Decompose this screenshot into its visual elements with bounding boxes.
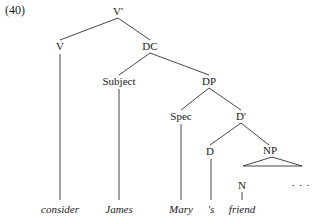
node-ellipsis: . . .: [292, 176, 311, 188]
node-d: D: [206, 145, 214, 157]
node-np: NP: [263, 144, 277, 156]
node-dbar: D': [236, 110, 246, 122]
leaf-possessive: 's: [208, 203, 215, 215]
node-dp: DP: [202, 75, 216, 87]
node-n: N: [238, 179, 246, 191]
leaf-james: James: [105, 203, 133, 215]
node-subject: Subject: [103, 75, 136, 87]
node-vbar: V': [113, 5, 123, 17]
node-spec: Spec: [170, 110, 191, 122]
node-dc: DC: [142, 40, 157, 52]
leaf-mary: Mary: [169, 203, 193, 215]
node-v: V: [56, 40, 64, 52]
leaf-friend: friend: [229, 203, 255, 215]
leaf-consider: consider: [41, 203, 79, 215]
tree-branches: [0, 0, 319, 222]
example-number: (40): [5, 3, 25, 18]
